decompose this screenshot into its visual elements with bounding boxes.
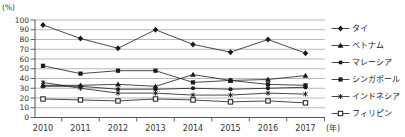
y-tick-label-60: 60 <box>19 55 29 64</box>
y-tick-label-80: 80 <box>19 35 29 44</box>
x-tick-label-2013: 2013 <box>145 124 165 133</box>
x-axis-ticks: 20102011201220132014201520162017 <box>33 118 325 133</box>
y-tick-label-10: 10 <box>19 103 29 112</box>
x-tick-label-2012: 2012 <box>108 124 128 133</box>
y-tick-label-20: 20 <box>19 94 29 103</box>
legend-label-singapore: シンガポール <box>352 76 400 84</box>
y-tick-label-90: 90 <box>19 25 29 34</box>
asterisk-icon <box>331 91 350 102</box>
percentage-line-chart: (%) 010203040506070809010020102011201220… <box>0 0 405 137</box>
legend-item-vietnam: ベトナム <box>331 40 400 51</box>
x-tick-label-2016: 2016 <box>258 124 278 133</box>
square-icon <box>331 74 350 85</box>
x-tick-label-2015: 2015 <box>220 124 240 133</box>
y-axis-ticks: 0102030405060708090100 <box>15 16 35 123</box>
x-tick-label-2014: 2014 <box>183 124 203 133</box>
y-tick-label-30: 30 <box>19 84 29 93</box>
legend-item-indonesia: インドネシア <box>331 91 400 102</box>
y-tick-label-70: 70 <box>19 45 29 54</box>
series-markers-thailand <box>40 22 308 56</box>
legend-item-philippines: フィリピン <box>331 108 400 119</box>
y-tick-label-40: 40 <box>19 74 29 83</box>
x-tick-label-2011: 2011 <box>70 124 90 133</box>
x-axis-unit-label: (年) <box>326 122 340 133</box>
y-tick-label-100: 100 <box>15 16 30 25</box>
legend-item-malaysia: マレーシア <box>331 57 400 68</box>
legend-label-malaysia: マレーシア <box>352 59 392 67</box>
diamond-icon <box>331 23 350 34</box>
legend-label-philippines: フィリピン <box>352 110 392 118</box>
y-axis-unit-label: (%) <box>2 3 15 12</box>
x-tick-label-2017: 2017 <box>295 124 315 133</box>
legend: タイベトナムマレーシアシンガポールインドネシアフィリピン <box>331 23 400 119</box>
triangle-icon <box>331 40 350 51</box>
open-square-icon <box>331 108 350 119</box>
legend-item-thailand: タイ <box>331 23 400 34</box>
y-tick-label-0: 0 <box>24 113 29 122</box>
y-tick-label-50: 50 <box>19 64 29 73</box>
circle-icon <box>331 57 350 68</box>
x-tick-label-2010: 2010 <box>33 124 53 133</box>
legend-label-indonesia: インドネシア <box>352 93 400 101</box>
legend-label-thailand: タイ <box>352 25 368 33</box>
legend-label-vietnam: ベトナム <box>352 42 384 50</box>
legend-item-singapore: シンガポール <box>331 74 400 85</box>
